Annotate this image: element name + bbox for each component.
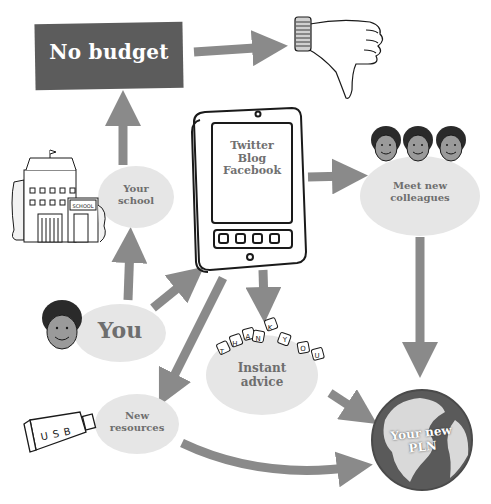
instant-advice-line2: advice — [214, 376, 310, 390]
arrow-budget-to-thumbsdown — [194, 47, 270, 52]
arrow-you-to-tablet — [153, 278, 190, 308]
you-label: You — [80, 318, 160, 343]
svg-text:O: O — [300, 345, 306, 353]
arrow-you-to-school — [128, 245, 130, 300]
svg-text:H: H — [232, 340, 237, 348]
tablet-line-twitter: Twitter — [212, 140, 292, 153]
svg-text:A: A — [246, 333, 251, 341]
your-school-line2: school — [100, 195, 172, 207]
svg-text:T: T — [219, 348, 225, 356]
arrow-tablet-to-colleagues — [308, 176, 350, 177]
new-resources-line1: New — [97, 410, 177, 422]
face-icon — [42, 300, 82, 349]
instant-advice-label: Instant advice — [214, 362, 310, 390]
meet-colleagues-label: Meet new colleagues — [370, 180, 470, 203]
no-budget-label: No budget — [35, 40, 183, 64]
your-school-label: Your school — [100, 183, 172, 206]
pln-diagram: SCHOOL — [0, 0, 491, 504]
school-building-icon — [12, 150, 105, 242]
svg-text:K: K — [268, 324, 273, 332]
three-faces-icon — [371, 126, 466, 161]
svg-text:U: U — [314, 352, 319, 360]
school-sign-text: SCHOOL — [72, 203, 93, 209]
tablet-line-facebook: Facebook — [212, 165, 292, 178]
new-resources-line2: resources — [97, 422, 177, 434]
svg-text:N: N — [255, 335, 260, 343]
meet-colleagues-line2: colleagues — [370, 192, 470, 204]
thumbs-down-icon — [295, 17, 383, 98]
new-resources-label: New resources — [97, 410, 177, 433]
svg-text:Y: Y — [282, 336, 288, 344]
arrow-resources-to-pln — [182, 443, 355, 470]
tablet-icon — [192, 108, 306, 272]
arrow-advice-to-pln — [330, 393, 362, 414]
your-school-line1: Your — [100, 183, 172, 195]
tablet-label: Twitter Blog Facebook — [212, 140, 292, 178]
arrow-tablet-to-advice — [263, 270, 264, 305]
meet-colleagues-line1: Meet new — [370, 180, 470, 192]
instant-advice-line1: Instant — [214, 362, 310, 376]
